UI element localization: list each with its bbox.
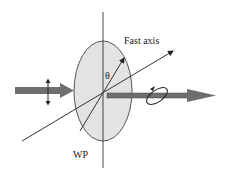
theta-label: θ (105, 70, 110, 81)
fast-axis-label: Fast axis (124, 35, 159, 46)
waveplate-label: WP (73, 149, 88, 160)
input-beam (15, 83, 74, 98)
waveplate-diagram: Fast axis θ WP (0, 0, 226, 178)
